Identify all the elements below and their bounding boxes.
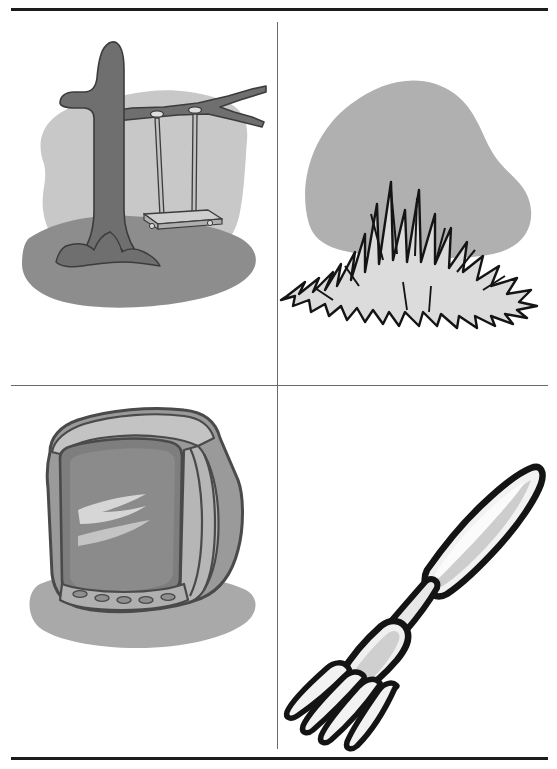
tree-swing-illustration bbox=[12, 14, 275, 382]
tv-button-2 bbox=[95, 595, 109, 602]
fork-picture[interactable]: fork bbox=[279, 388, 547, 754]
fork-body bbox=[287, 467, 543, 749]
tree-swing-picture[interactable]: tree swing bbox=[12, 14, 275, 382]
fork-illustration bbox=[279, 388, 547, 754]
swing-rope-right bbox=[192, 114, 197, 212]
worksheet-page: tree swing gra bbox=[0, 0, 557, 769]
grass-illustration bbox=[279, 14, 547, 382]
swing-loop-right bbox=[189, 107, 202, 113]
tv-button-4 bbox=[139, 597, 153, 604]
tv-button-1 bbox=[73, 591, 87, 598]
vertical-divider bbox=[277, 22, 278, 749]
tv-button-5 bbox=[161, 594, 175, 601]
top-border-rule bbox=[11, 8, 548, 11]
swing-seat-bolt-right bbox=[207, 220, 212, 225]
swing-seat-bolt-left bbox=[149, 223, 154, 228]
swing-loop-left bbox=[151, 111, 164, 117]
tv-button-3 bbox=[117, 597, 131, 604]
middle-horizontal-divider bbox=[11, 385, 548, 386]
television-picture[interactable]: television bbox=[12, 388, 275, 754]
grass-bush-picture[interactable]: grass bbox=[279, 14, 547, 382]
bottom-border-rule bbox=[11, 757, 548, 760]
television-illustration bbox=[12, 388, 275, 754]
